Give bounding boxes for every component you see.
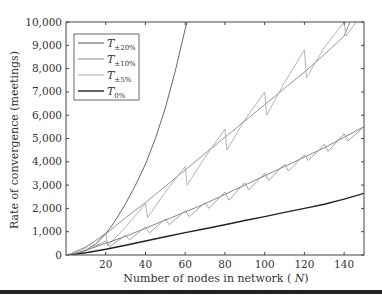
y-tick-label: 0 [55,249,62,261]
y-tick-label: 8,000 [32,62,62,74]
y-axis-title: Rate of convergence (meetings) [8,51,21,229]
x-axis-title: Number of nodes in network ( N) [123,272,308,285]
x-tick-label: 80 [218,258,231,270]
y-tick-label: 1,000 [32,225,62,237]
y-tick-label: 2,000 [32,202,62,214]
series-line-4 [68,127,364,255]
series-line-5 [68,127,364,255]
y-tick-label: 6,000 [32,109,62,121]
x-tick-label: 140 [334,258,354,270]
y-tick-label: 9,000 [32,39,62,51]
y-tick-label: 4,000 [32,155,62,167]
y-tick-label: 5,000 [32,132,62,144]
y-tick-label: 3,000 [32,179,62,191]
convergence-chart: 01,0002,0003,0004,0005,0006,0007,0008,00… [0,0,382,300]
x-tick-label: 60 [179,258,192,270]
page-bottom-rule [0,290,382,294]
y-tick-label: 7,000 [32,85,62,97]
y-tick-label: 10,000 [25,16,62,28]
legend: T±20%T±10%T±5%T0% [74,34,139,100]
x-tick-label: 100 [255,258,275,270]
x-tick-label: 20 [99,258,112,270]
x-tick-label: 40 [139,258,152,270]
x-tick-label: 120 [294,258,314,270]
